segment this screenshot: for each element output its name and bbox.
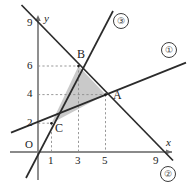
point-marker-A xyxy=(104,93,107,96)
point-label-B: B xyxy=(77,48,85,60)
x-axis-label: x xyxy=(166,137,171,148)
x-tick-label-5: 5 xyxy=(102,155,108,166)
point-marker-C xyxy=(50,122,53,125)
point-marker-B xyxy=(77,65,80,68)
y-tick-label-4: 4 xyxy=(27,88,33,99)
point-label-C: C xyxy=(55,122,63,134)
y-axis-label: y xyxy=(44,13,49,24)
x-tick-label-3: 3 xyxy=(75,155,81,166)
line-2-path xyxy=(22,5,174,161)
origin-label: O xyxy=(25,139,33,150)
x-tick-label-9: 9 xyxy=(153,155,159,166)
line-2-label: ② xyxy=(160,166,176,182)
y-tick-label-2: 2 xyxy=(27,117,33,128)
x-tick-label-1: 1 xyxy=(48,155,54,166)
coordinate-graph-figure: y x O 9 6 4 2 1 3 5 9 A B C ① ② ③ xyxy=(0,0,195,190)
y-tick-label-9: 9 xyxy=(27,17,33,28)
line-1-label: ① xyxy=(161,42,177,58)
y-tick-label-6: 6 xyxy=(27,60,33,71)
line-3-label: ③ xyxy=(113,13,129,29)
point-label-A: A xyxy=(113,89,122,101)
